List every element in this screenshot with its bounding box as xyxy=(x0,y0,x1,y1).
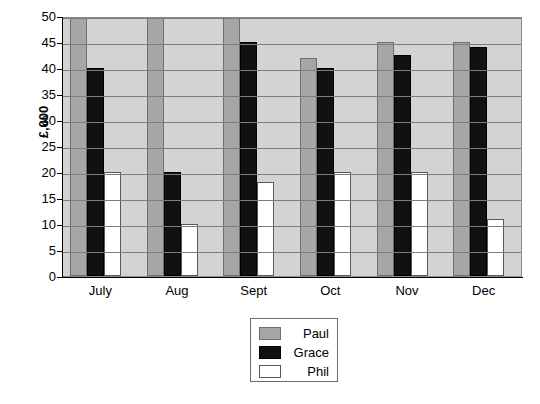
bar-grace-oct xyxy=(317,68,334,276)
y-axis-tick-label: 15 xyxy=(10,192,56,205)
legend: PaulGracePhil xyxy=(250,318,338,382)
x-axis-tick-label-nov: Nov xyxy=(369,283,446,298)
legend-swatch-grace xyxy=(259,346,281,359)
y-axis-tick-label: 5 xyxy=(10,244,56,257)
x-axis-tick-label-oct: Oct xyxy=(292,283,369,298)
bar-paul-july xyxy=(70,17,87,276)
bar-phil-oct xyxy=(334,172,351,276)
legend-item-grace: Grace xyxy=(251,343,337,361)
bar-paul-dec xyxy=(453,42,470,276)
bar-phil-dec xyxy=(487,219,504,276)
bar-grace-aug xyxy=(164,172,181,276)
bar-paul-oct xyxy=(300,58,317,276)
y-axis-tick-label: 10 xyxy=(10,218,56,231)
x-axis-tick-label-dec: Dec xyxy=(445,283,522,298)
y-axis-tick-label: 45 xyxy=(10,36,56,49)
bar-phil-nov xyxy=(411,172,428,276)
bar-paul-sept xyxy=(223,17,240,276)
bar-grace-nov xyxy=(394,55,411,276)
legend-label-paul: Paul xyxy=(281,327,337,340)
y-axis-tick-label: 25 xyxy=(10,140,56,153)
x-axis-tick-label-july: July xyxy=(62,283,139,298)
bar-paul-nov xyxy=(377,42,394,276)
legend-swatch-paul xyxy=(259,327,281,340)
y-axis-tick-label: 35 xyxy=(10,88,56,101)
y-axis-tick-label: 30 xyxy=(10,114,56,127)
y-axis-tick-label: 20 xyxy=(10,166,56,179)
bar-phil-aug xyxy=(181,224,198,276)
bar-phil-july xyxy=(104,172,121,276)
y-axis-tick-label: 40 xyxy=(10,62,56,75)
legend-label-phil: Phil xyxy=(281,365,337,378)
legend-item-paul: Paul xyxy=(251,324,337,342)
legend-swatch-phil xyxy=(259,365,281,378)
y-axis-tick-label: 0 xyxy=(10,270,56,283)
bar-chart: £,000 50454035302520151050 JulyAugSeptOc… xyxy=(0,0,540,404)
gridline xyxy=(63,18,521,19)
x-axis-line xyxy=(62,277,523,278)
bar-phil-sept xyxy=(257,182,274,276)
legend-item-phil: Phil xyxy=(251,362,337,380)
x-axis-labels: JulyAugSeptOctNovDec xyxy=(62,283,522,303)
bar-paul-aug xyxy=(147,17,164,276)
y-axis-tick-label: 50 xyxy=(10,10,56,23)
x-axis-tick-label-aug: Aug xyxy=(139,283,216,298)
bar-grace-sept xyxy=(240,42,257,276)
legend-label-grace: Grace xyxy=(281,346,337,359)
plot-area xyxy=(62,17,522,277)
y-axis-line xyxy=(62,17,63,278)
bar-grace-dec xyxy=(470,47,487,276)
x-axis-tick-label-sept: Sept xyxy=(215,283,292,298)
bar-grace-july xyxy=(87,68,104,276)
y-axis-ticks: 50454035302520151050 xyxy=(0,0,56,404)
